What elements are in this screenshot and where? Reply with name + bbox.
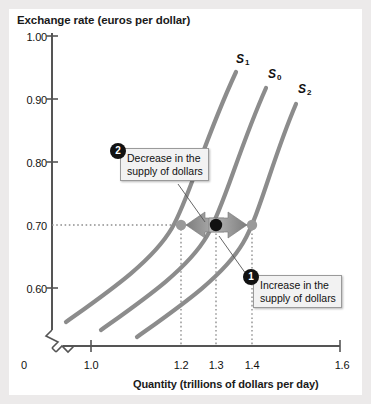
figure-container: Exchange rate (euros per dollar) Quantit…: [0, 0, 371, 404]
curve-label-s2: S2: [298, 82, 310, 96]
callout-increase-supply: Increase in the supply of dollars: [253, 275, 342, 308]
curve-s0: [101, 88, 266, 330]
marker-point-s1: [176, 220, 186, 230]
callout-increase-line2: supply of dollars: [260, 292, 336, 305]
curve-label-s0: S0: [268, 67, 280, 81]
callout-decrease-supply: Decrease in the supply of dollars: [120, 148, 209, 181]
callout-badge-2: 2: [110, 143, 126, 159]
curve-label-s1: S1: [236, 52, 248, 66]
marker-point-s0: [210, 219, 222, 231]
chart-svg: [0, 0, 371, 404]
callout-increase-line1: Increase in the: [260, 279, 336, 292]
callout-decrease-line2: supply of dollars: [127, 165, 203, 178]
callout-decrease-line1: Decrease in the: [127, 152, 203, 165]
curve-s1: [66, 72, 236, 322]
callout-badge-1: 1: [243, 269, 259, 285]
marker-point-s2: [247, 220, 257, 230]
